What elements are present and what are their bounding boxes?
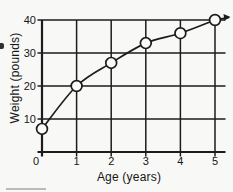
weight-vs-age-growth-chart-figure: 10203040012345 Weight (pounds) Age (year… <box>0 0 233 192</box>
y-tick-label: 30 <box>24 47 36 59</box>
curve-arrowhead <box>224 14 231 21</box>
data-point-marker <box>175 28 186 39</box>
data-point-marker <box>140 38 151 49</box>
x-tick-label: 4 <box>177 155 183 167</box>
data-point-marker <box>106 58 117 69</box>
scan-artifact-line <box>6 188 46 190</box>
weight-vs-age-line-chart: 10203040012345 <box>0 0 233 192</box>
x-tick-label: 3 <box>143 155 149 167</box>
y-tick-label: 20 <box>24 80 36 92</box>
y-axis-title: Weight (pounds) <box>8 33 22 124</box>
x-tick-label: 5 <box>212 155 218 167</box>
y-tick-label: 10 <box>24 113 36 125</box>
data-point-marker <box>71 81 82 92</box>
data-point-marker <box>210 15 221 26</box>
x-tick-label: 1 <box>74 155 80 167</box>
x-axis-title: Age (years) <box>97 170 161 184</box>
y-tick-label: 40 <box>24 14 36 26</box>
x-tick-label: 0 <box>33 155 39 167</box>
data-point-marker <box>37 123 48 134</box>
x-tick-label: 2 <box>108 155 114 167</box>
growth-curve <box>42 20 215 129</box>
scan-artifact-blob <box>0 43 4 49</box>
